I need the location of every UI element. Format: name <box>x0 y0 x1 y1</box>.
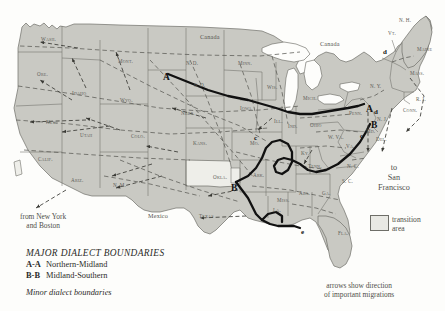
country-label-mexico: Mexico <box>148 212 168 219</box>
annotation-to-san-francisco: to San Francisco <box>378 163 410 193</box>
transition-label-line-1: transition <box>392 215 421 224</box>
annotation-line-2: and Boston <box>20 221 66 230</box>
state-label-la: La. <box>273 207 281 213</box>
boundary-marker-a-1: A <box>366 104 373 114</box>
annotation-line-2: San <box>378 173 410 183</box>
state-label-n-y: N. Y. <box>370 83 381 89</box>
state-label-nev: Nev. <box>46 119 57 125</box>
maine-shape <box>402 16 432 68</box>
state-label-del: Del. <box>376 136 387 142</box>
state-label-maine: Maine <box>417 46 432 52</box>
boundary-marker-a-0: A <box>163 72 170 82</box>
state-label-ark: Ark. <box>253 172 264 178</box>
state-label-miss: Miss. <box>277 197 290 203</box>
transition-area-swatch <box>370 215 389 231</box>
boundary-marker-c-4: c <box>254 134 257 142</box>
state-label-conn: Conn. <box>403 107 417 113</box>
state-label-ind: Ind. <box>288 123 298 129</box>
state-label-wis: Wis. <box>267 84 277 90</box>
state-label-mass: Mass. <box>410 70 424 76</box>
annotation-line-1: arrows show direction <box>324 281 394 290</box>
arrow-from-ny-boston <box>36 190 66 208</box>
state-label-ore: Ore. <box>37 71 48 77</box>
transition-area-label: transition area <box>392 215 421 234</box>
state-label-n-j: N. J. <box>377 116 387 122</box>
country-label-canada-east: Canada <box>320 40 340 47</box>
state-label-va: Va. <box>346 143 354 149</box>
transition-label-line-2: area <box>392 224 421 233</box>
state-label-s-c: S. C. <box>342 178 353 184</box>
state-label-calif: Calif. <box>38 156 53 162</box>
state-label-utah: Utah <box>80 132 92 138</box>
annotation-line-2: of important migrations <box>324 290 394 299</box>
state-label-w-va: W. Va. <box>328 134 344 140</box>
boundary-marker-c-5: c <box>360 132 363 140</box>
state-label-ga: Ga. <box>322 190 330 196</box>
state-label-ala: Ala. <box>299 190 310 196</box>
state-label-n-m: N. M. <box>113 182 126 188</box>
legend-entry-a-code: A-A <box>26 260 46 269</box>
legend-entry-b-label: Midland-Southern <box>46 271 107 280</box>
legend: MAJOR DIALECT BOUNDARIES A-ANorthern-Mid… <box>26 248 164 297</box>
boundary-marker-d-6: d <box>374 108 378 116</box>
state-label-okla: Okla. <box>213 174 227 180</box>
state-label-n-h: N. H. <box>399 17 411 23</box>
state-label-r-i: R. I. <box>416 96 426 102</box>
state-label-s-d: S. D. <box>194 82 205 88</box>
country-label-canada-west: Canada <box>200 33 220 40</box>
state-label-vt: Vt. <box>388 30 396 36</box>
state-label-mich: Mich. <box>303 95 317 101</box>
legend-entry-b-code: B-B <box>26 271 46 280</box>
legend-title: MAJOR DIALECT BOUNDARIES <box>26 248 164 258</box>
state-label-ill: Ill. <box>274 118 283 124</box>
state-label-texas: Texas <box>199 213 214 219</box>
state-label-wyo: Wyo. <box>120 97 133 103</box>
state-label-n-c: N. C. <box>347 163 359 169</box>
state-label-n-d: N. D. <box>186 60 198 66</box>
annotation-from-new-york-boston: from New York and Boston <box>20 212 66 230</box>
legend-minor-boundaries-label: Minor dialect boundaries <box>26 288 164 297</box>
annotation-line-1: from New York <box>20 212 66 221</box>
legend-entry-a: A-ANorthern-Midland <box>26 260 164 269</box>
dialect-map-figure: Canada Canada Mexico Wash.Ore.IdahoNev.U… <box>0 0 445 311</box>
annotation-line-1: to <box>378 163 410 173</box>
boundary-marker-b-2: B <box>231 183 238 193</box>
state-label-iowa: Iowa <box>240 105 252 111</box>
boundary-marker-b-3: B <box>371 120 378 130</box>
state-label-ariz: Ariz. <box>71 177 83 183</box>
state-label-mont: Mont. <box>118 58 133 64</box>
west-transition-sliver <box>14 160 22 176</box>
boundary-marker-d-7: d <box>383 48 387 56</box>
state-label-fla: Fla. <box>338 230 348 236</box>
boundary-marker-e-8: e <box>301 228 304 236</box>
oklahoma-transition-area <box>186 160 236 187</box>
state-label-wash: Wash. <box>41 36 56 42</box>
state-label-idaho: Idaho <box>72 90 86 96</box>
legend-entry-b: B-BMidland-Southern <box>26 271 164 280</box>
annotation-line-3: Francisco <box>378 183 410 193</box>
annotation-arrows-show-direction: arrows show direction of important migra… <box>324 281 394 299</box>
state-label-ky: Ky. <box>301 150 309 156</box>
state-label-tenn: Tenn. <box>308 163 322 169</box>
state-label-penn: Penn. <box>349 110 362 116</box>
state-label-ohio: Ohio <box>310 122 322 128</box>
state-label-minn: Minn. <box>238 60 252 66</box>
state-label-nebr: Nebr. <box>181 110 195 116</box>
legend-entry-a-label: Northern-Midland <box>46 260 107 269</box>
state-label-colo: Colo. <box>131 133 145 139</box>
state-label-kans: Kans. <box>193 140 207 146</box>
